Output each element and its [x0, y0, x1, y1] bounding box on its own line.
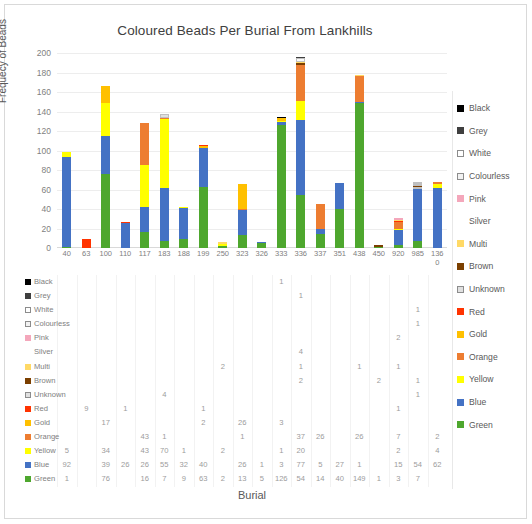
bar-stack[interactable] — [121, 222, 130, 248]
table-row-label: Orange — [25, 430, 59, 444]
bar-segment — [374, 247, 383, 248]
legend-item-orange[interactable]: Orange — [457, 346, 532, 369]
legend-item-brown[interactable]: Brown — [457, 255, 532, 278]
legend-item-black[interactable]: Black — [457, 97, 532, 120]
table-cell: 40 — [192, 458, 214, 472]
table-swatch-icon — [25, 420, 31, 426]
bar-stack[interactable] — [374, 245, 383, 248]
table-swatch-icon — [25, 364, 31, 370]
table-row-label: Black — [25, 275, 53, 289]
table-cell: 4 — [153, 388, 175, 402]
table-label-text: Black — [34, 275, 53, 289]
table-cell: 2 — [426, 430, 448, 444]
legend-item-silver[interactable]: Silver — [457, 210, 532, 233]
legend-item-multi[interactable]: Multi — [457, 233, 532, 256]
table-row-label: Silver — [25, 345, 53, 359]
bar-stack[interactable] — [238, 184, 247, 248]
table-row-label: Multi — [25, 360, 50, 374]
legend-label: Brown — [469, 261, 493, 271]
table-cell: 1 — [114, 402, 136, 416]
legend-item-gold[interactable]: Gold — [457, 323, 532, 346]
bar-stack[interactable] — [433, 182, 442, 248]
table-cell: 1 — [407, 374, 429, 388]
table-row: White1 — [25, 303, 449, 317]
table-cell: 7 — [407, 472, 429, 486]
bar-stack[interactable] — [179, 207, 188, 248]
table-cell: 1 — [270, 275, 292, 289]
bar-stack[interactable] — [160, 114, 169, 248]
bar-segment — [101, 174, 110, 248]
table-cell: 17 — [95, 416, 117, 430]
x-axis-label: Burial — [57, 489, 447, 501]
legend-item-blue[interactable]: Blue — [457, 391, 532, 414]
table-label-text: Red — [34, 402, 48, 416]
bar-stack[interactable] — [277, 117, 286, 248]
legend-item-grey[interactable]: Grey — [457, 120, 532, 143]
bar-stack[interactable] — [82, 239, 91, 248]
table-swatch-icon — [25, 378, 31, 384]
legend-swatch-icon — [457, 331, 464, 338]
legend-item-unknown[interactable]: Unknown — [457, 278, 532, 301]
bar-stack[interactable] — [257, 242, 266, 248]
table-swatch-icon — [25, 321, 31, 327]
table-row: Black1 — [25, 275, 449, 289]
legend-item-yellow[interactable]: Yellow — [457, 368, 532, 391]
bar-segment — [277, 125, 286, 248]
table-cell: 7 — [387, 430, 409, 444]
bar-stack[interactable] — [62, 152, 71, 248]
bar-segment — [160, 188, 169, 242]
legend-item-colourless[interactable]: Colourless — [457, 165, 532, 188]
bar-stack[interactable] — [355, 75, 364, 248]
bar-stack[interactable] — [218, 242, 227, 248]
bar-segment — [355, 103, 364, 248]
table-cell: 26 — [309, 430, 331, 444]
bar-stack[interactable] — [335, 183, 344, 248]
bar-segment — [140, 123, 149, 165]
table-cell: 1 — [231, 430, 253, 444]
bar-segment — [296, 65, 305, 101]
bar-stack[interactable] — [316, 204, 325, 248]
table-row: Pink2 — [25, 331, 449, 345]
bar-segment — [394, 245, 403, 248]
x-tick-label: 1360 — [426, 250, 448, 267]
bar-stack[interactable] — [296, 57, 305, 248]
table-cell: 4 — [290, 345, 312, 359]
legend-label: Gold — [469, 329, 487, 339]
y-tick-label: 80 — [7, 165, 51, 175]
legend-label: Orange — [469, 352, 498, 362]
table-row: Green1761679632135126541440149137 — [25, 472, 449, 486]
legend-label: Pink — [469, 194, 486, 204]
bar-segment — [199, 148, 208, 187]
table-cell: 26 — [231, 416, 253, 430]
legend-swatch-icon — [457, 150, 464, 157]
y-tick-label: 60 — [7, 185, 51, 195]
table-cell: 1 — [387, 402, 409, 416]
table-row: Blue923926265532402613775271155462 — [25, 458, 449, 472]
table-cell: 1 — [192, 402, 214, 416]
table-row: Gold172263 — [25, 416, 449, 430]
bar-stack[interactable] — [413, 182, 422, 248]
table-cell: 1 — [56, 472, 78, 486]
legend-swatch-icon — [457, 218, 464, 225]
table-row-label: White — [25, 303, 53, 317]
bar-stack[interactable] — [101, 86, 110, 248]
bar-segment — [316, 234, 325, 248]
legend-item-green[interactable]: Green — [457, 413, 532, 436]
table-label-text: Grey — [34, 289, 50, 303]
table-row: Orange431137262672 — [25, 430, 449, 444]
legend-swatch-icon — [457, 173, 464, 180]
bar-stack[interactable] — [199, 145, 208, 248]
table-swatch-icon — [25, 406, 31, 412]
bar-segment — [140, 207, 149, 232]
legend-item-red[interactable]: Red — [457, 300, 532, 323]
bar-stack[interactable] — [140, 123, 149, 248]
legend-item-white[interactable]: White — [457, 142, 532, 165]
table-cell: 2 — [192, 416, 214, 430]
legend-label: Grey — [469, 126, 488, 136]
bar-segment — [62, 157, 71, 247]
table-row: Multi2111 — [25, 360, 449, 374]
legend-item-pink[interactable]: Pink — [457, 187, 532, 210]
legend-swatch-icon — [457, 127, 464, 134]
bar-stack[interactable] — [394, 218, 403, 248]
legend-label: Green — [469, 420, 493, 430]
